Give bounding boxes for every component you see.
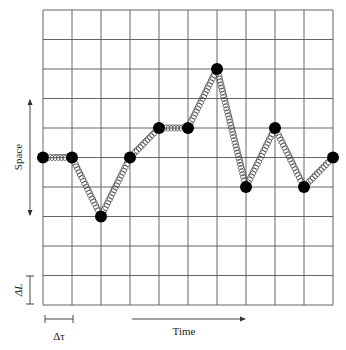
springs <box>47 71 332 215</box>
spring-coil <box>246 130 274 184</box>
spring-coil <box>275 131 305 185</box>
time-axis-arrow <box>132 317 246 322</box>
space-axis-arrow <box>28 99 33 216</box>
spring-coil <box>188 71 216 125</box>
mass-point <box>124 152 136 164</box>
mass-point <box>37 152 49 164</box>
mass-point <box>95 211 107 223</box>
lattice-grid <box>43 10 333 305</box>
mass-point <box>153 122 165 134</box>
mass-point <box>211 63 223 75</box>
mass-point <box>66 152 78 164</box>
spring-coil <box>215 73 247 185</box>
mass-point <box>327 152 339 164</box>
spring-coil <box>72 161 102 215</box>
time-axis-label: Time <box>173 325 196 337</box>
space-axis-label: Space <box>12 144 24 170</box>
mass-point <box>269 122 281 134</box>
spring-coil <box>101 159 129 213</box>
mass-point <box>182 122 194 134</box>
spring-coil <box>306 159 331 186</box>
mass-point <box>298 181 310 193</box>
delta-l-label: ΔL <box>12 284 24 298</box>
delta-l-marker <box>26 276 34 304</box>
spring-coil <box>132 129 157 156</box>
delta-tau-marker <box>45 315 73 323</box>
mass-point <box>240 181 252 193</box>
delta-tau-label: Δτ <box>53 330 65 342</box>
spacetime-spring-diagram: Space ΔL Δτ Time <box>0 0 346 350</box>
